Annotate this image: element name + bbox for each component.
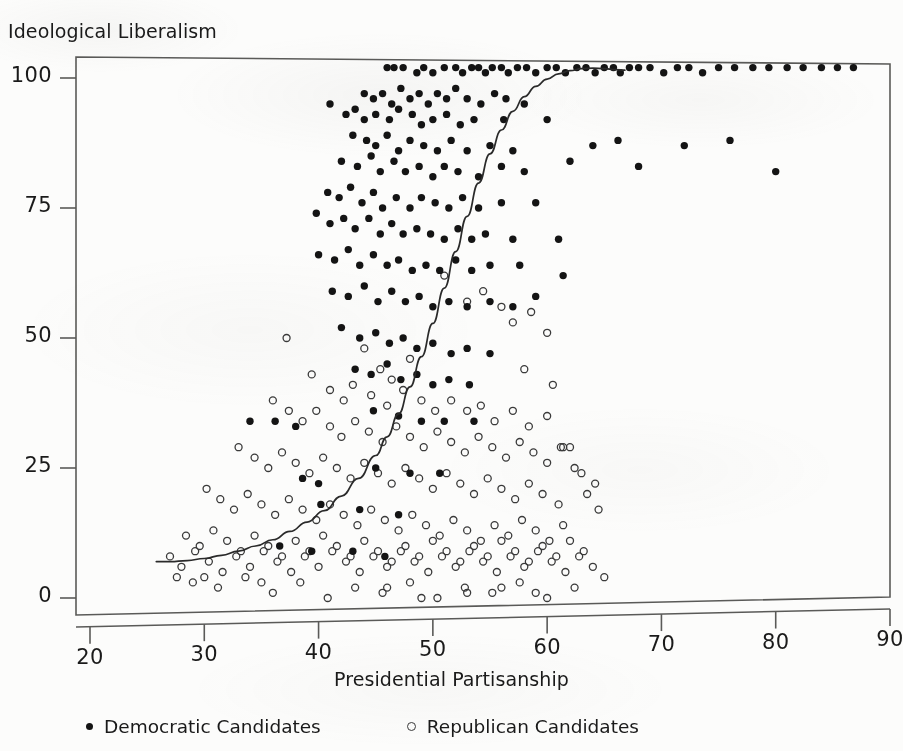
legend-entry-democratic: Democratic Candidates <box>86 716 321 737</box>
y-tick-label: 100 <box>0 63 52 87</box>
open-circle-icon <box>407 722 416 731</box>
scatter-plot-figure: Ideological Liberalism Presidential Part… <box>0 0 903 751</box>
x-tick-label: 30 <box>174 642 234 666</box>
legend-label-republican: Republican Candidates <box>427 716 639 737</box>
democratic-data-points <box>246 64 857 560</box>
filled-circle-icon <box>86 723 93 730</box>
x-tick-label: 90 <box>860 627 903 651</box>
x-tick-label: 50 <box>403 637 463 661</box>
y-tick-label: 75 <box>0 193 52 217</box>
y-tick-label: 0 <box>0 583 52 607</box>
x-tick-label: 40 <box>289 640 349 664</box>
x-tick-label: 80 <box>746 630 806 654</box>
axis-frame <box>76 57 890 627</box>
x-tick-label: 20 <box>60 645 120 669</box>
x-tick-label: 60 <box>517 635 577 659</box>
chart-legend: Democratic Candidates Republican Candida… <box>86 716 639 737</box>
y-tick-label: 50 <box>0 323 52 347</box>
y-tick-label: 25 <box>0 453 52 477</box>
legend-entry-republican: Republican Candidates <box>407 716 639 737</box>
axis-tick-marks <box>60 78 890 644</box>
x-tick-label: 70 <box>631 632 691 656</box>
legend-label-democratic: Democratic Candidates <box>104 716 321 737</box>
